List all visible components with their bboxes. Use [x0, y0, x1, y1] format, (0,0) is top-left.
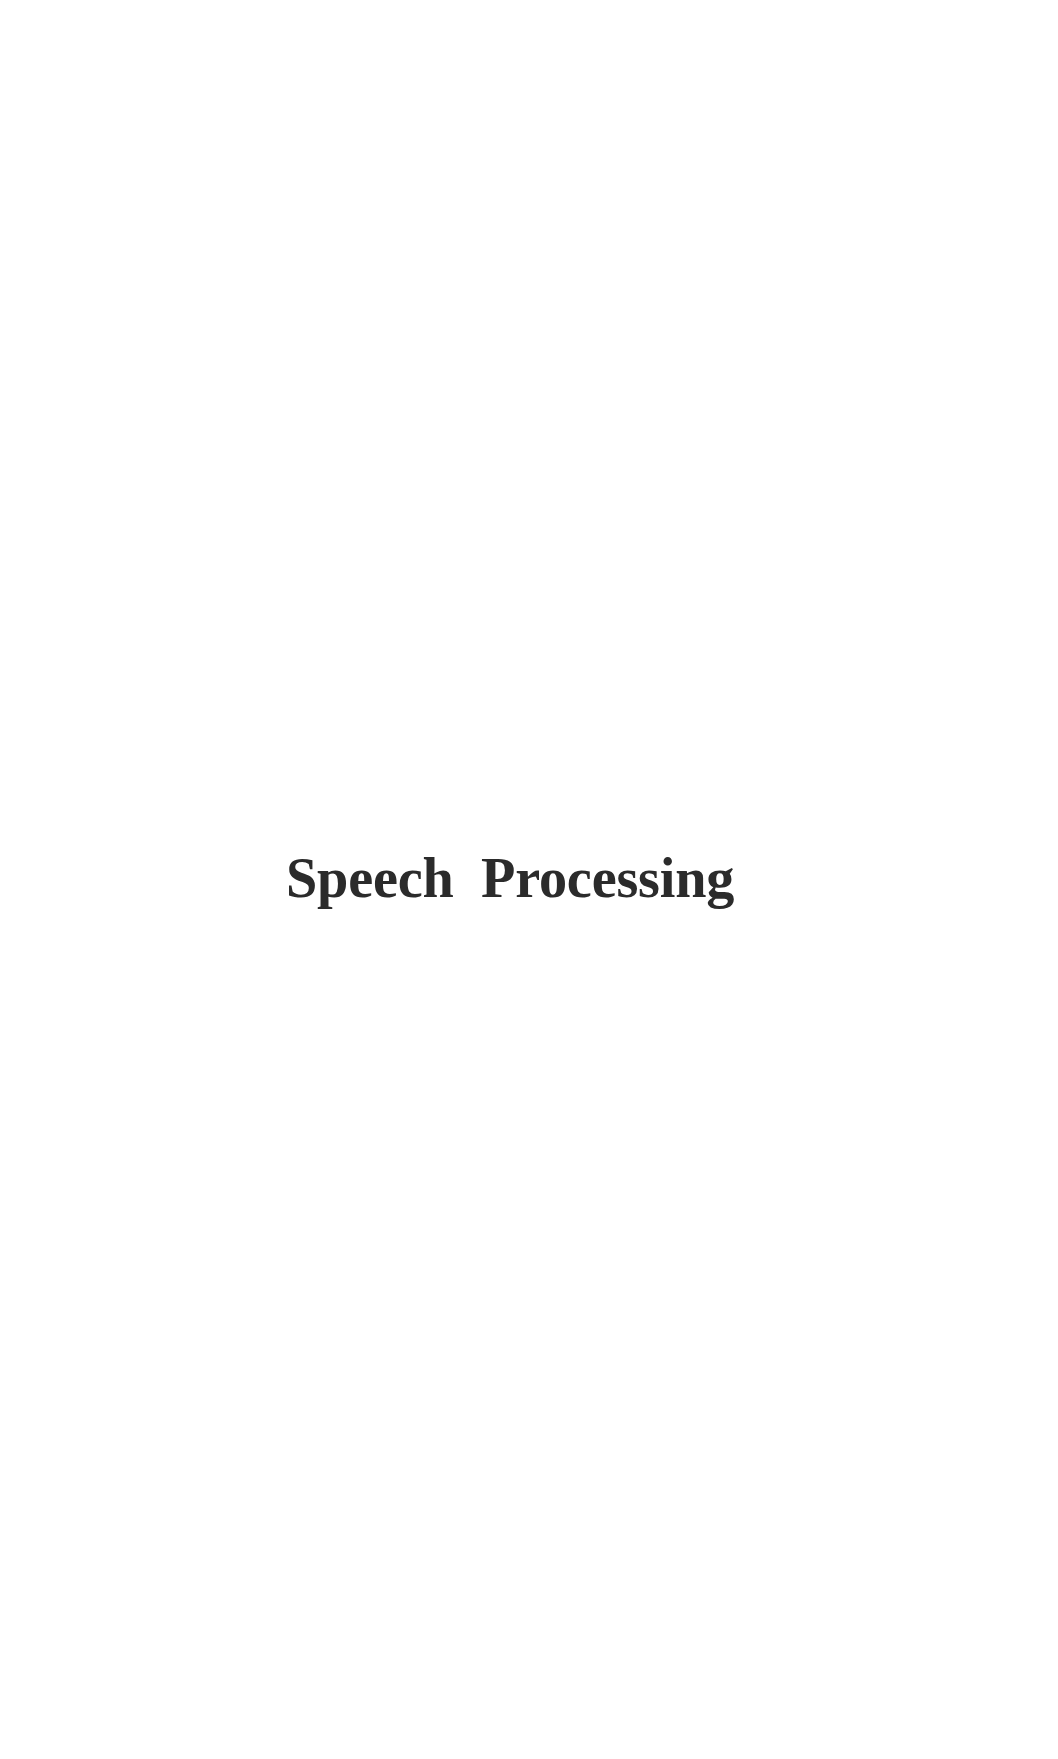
page-title-word-processing: Processing	[481, 846, 734, 910]
page-title-word-speech: Speech	[286, 846, 454, 910]
page-title: SpeechProcessing	[286, 846, 742, 910]
scanned-page: SpeechProcessing	[0, 0, 1058, 1759]
